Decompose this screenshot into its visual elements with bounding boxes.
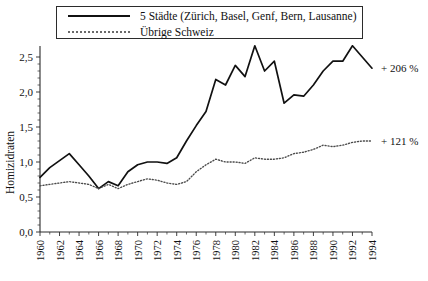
legend-item-cities: 5 Städte (Zürich, Basel, Genf, Bern, Lau… (57, 8, 362, 24)
x-tick-label: 1992 (347, 240, 358, 261)
x-tick-label: 1964 (74, 239, 85, 261)
legend-label-cities: 5 Städte (Zürich, Basel, Genf, Bern, Lau… (140, 10, 357, 22)
x-tick-label: 1990 (328, 240, 339, 261)
y-tick-label: 1,0 (19, 156, 33, 168)
x-tick-label: 1974 (172, 239, 183, 261)
x-tick-label: 1988 (308, 240, 319, 261)
annotation-rest-growth: + 121 % (381, 135, 418, 147)
annotation-cities-growth: + 206 % (381, 62, 418, 74)
x-tick-label: 1966 (94, 240, 105, 261)
y-axis-title: Homizidraten (4, 131, 16, 194)
y-tick-label: 0,5 (19, 191, 33, 203)
series-line-cities (40, 46, 372, 189)
dotted-line-key (66, 31, 132, 33)
y-tick-label: 2,5 (19, 51, 33, 63)
x-tick-label: 1962 (55, 240, 66, 261)
x-tick-label: 1976 (191, 240, 202, 261)
legend-label-rest: Übrige Schweiz (140, 26, 214, 38)
x-tick-label: 1994 (367, 239, 378, 261)
x-tick-label: 1970 (133, 240, 144, 261)
x-tick-label: 1984 (269, 239, 280, 261)
chart-legend: 5 Städte (Zürich, Basel, Genf, Bern, Lau… (56, 6, 363, 39)
solid-line-key (66, 15, 132, 17)
legend-item-rest: Übrige Schweiz (57, 24, 362, 40)
x-tick-label: 1982 (250, 240, 261, 261)
x-tick-label: 1972 (152, 240, 163, 261)
homicide-rate-chart: 0,00,51,01,52,02,51960196219641966196819… (0, 0, 428, 281)
series-line-rest (40, 141, 372, 189)
y-tick-label: 0,0 (19, 226, 33, 238)
x-tick-label: 1978 (211, 240, 222, 261)
y-tick-label: 2,0 (19, 86, 33, 98)
y-tick-label: 1,5 (19, 121, 33, 133)
x-tick-label: 1968 (113, 240, 124, 261)
chart-plot-area: 0,00,51,01,52,02,51960196219641966196819… (0, 0, 428, 281)
x-tick-label: 1960 (35, 240, 46, 261)
x-tick-label: 1986 (289, 240, 300, 261)
x-tick-label: 1980 (230, 240, 241, 261)
